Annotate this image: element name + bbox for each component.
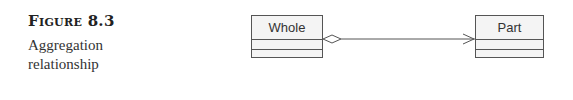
aggregation-diamond-icon [323, 35, 341, 43]
aggregation-connector [0, 0, 573, 100]
